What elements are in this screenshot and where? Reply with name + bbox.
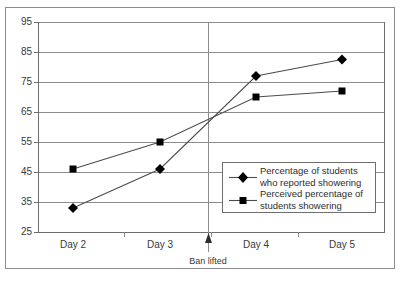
x-tick-label-day-3: Day 3 <box>130 240 190 250</box>
square-marker-icon <box>240 197 247 204</box>
legend-entry-reported-showering: Percentage of students who reported show… <box>229 165 375 189</box>
y-tick-label-35: 35 <box>10 197 32 207</box>
x-tick-label-day-2: Day 2 <box>43 240 103 250</box>
ban-lifted-arrow-icon <box>205 233 212 243</box>
legend-label-reported-showering: Percentage of students who reported show… <box>260 165 376 188</box>
square-marker <box>339 88 346 95</box>
chart-legend: Percentage of students who reported show… <box>222 162 376 213</box>
chart-figure: 95 85 75 65 55 45 35 25 Day 2 Day 3 Day … <box>0 0 403 284</box>
y-axis-ticks <box>34 23 38 233</box>
legend-label-perceived-showering: Perceived percentage of students showeri… <box>260 188 376 211</box>
legend-entry-perceived-showering: Perceived percentage of students showeri… <box>229 188 375 212</box>
y-tick-label-25: 25 <box>10 227 32 237</box>
diamond-marker <box>337 55 347 65</box>
y-tick-label-75: 75 <box>10 77 32 87</box>
diamond-marker <box>68 203 78 213</box>
square-marker <box>157 139 164 146</box>
series-perceived-showering <box>70 88 346 173</box>
square-marker <box>70 166 77 173</box>
diamond-marker-icon <box>238 172 248 183</box>
y-tick-label-65: 65 <box>10 107 32 117</box>
ban-lifted-marker <box>205 22 212 252</box>
y-tick-label-85: 85 <box>10 47 32 57</box>
x-tick-label-day-4: Day 4 <box>226 240 286 250</box>
y-tick-label-55: 55 <box>10 137 32 147</box>
square-marker <box>253 94 260 101</box>
series-perceived-line <box>73 91 342 169</box>
legend-swatch-square <box>229 188 257 212</box>
y-tick-label-45: 45 <box>10 167 32 177</box>
x-tick-label-day-5: Day 5 <box>312 240 372 250</box>
legend-swatch-diamond <box>229 165 257 189</box>
y-tick-label-95: 95 <box>10 17 32 27</box>
series-perceived-markers <box>70 88 346 173</box>
ban-lifted-label: Ban lifted <box>168 256 248 266</box>
